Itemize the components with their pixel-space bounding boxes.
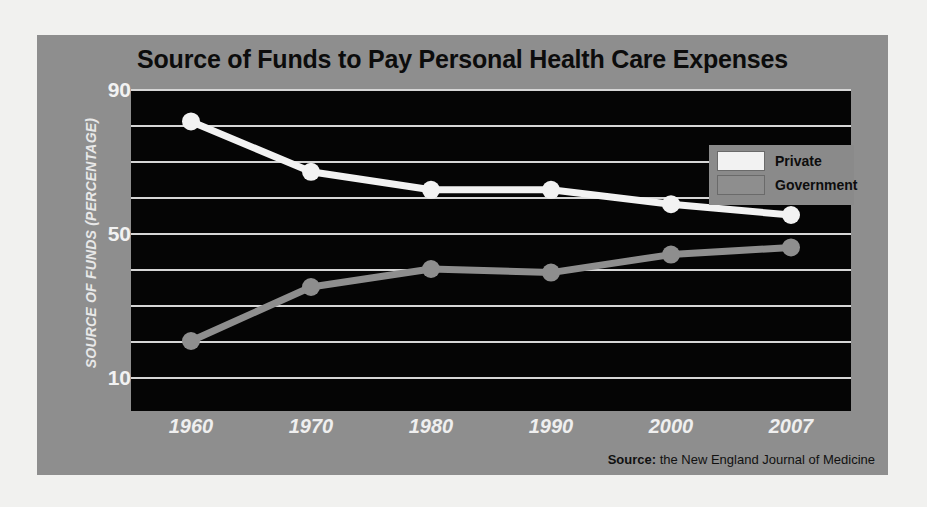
chart-card: Source of Funds to Pay Personal Health C…	[37, 35, 888, 475]
x-tick-label: 1960	[136, 415, 246, 438]
legend-swatch-private	[717, 151, 765, 171]
data-point-government-2000	[662, 246, 680, 264]
page-title: Source of Funds to Pay Personal Health C…	[37, 45, 888, 74]
legend-swatch-government	[717, 175, 765, 195]
data-point-private-2007	[782, 206, 800, 224]
data-point-government-2007	[782, 238, 800, 256]
y-axis-ticks: 90 50 10	[75, 35, 131, 475]
x-axis-ticks: 1960 1970 1980 1990 2000 2007	[131, 415, 851, 445]
x-tick-label: 2000	[616, 415, 726, 438]
x-tick-label: 1980	[376, 415, 486, 438]
line-government	[191, 247, 791, 341]
legend: Private Government	[709, 145, 854, 205]
series-svg	[131, 89, 851, 411]
page-root: Source of Funds to Pay Personal Health C…	[0, 0, 927, 507]
data-point-private-2000	[662, 195, 680, 213]
x-tick-label: 2007	[736, 415, 846, 438]
legend-label-government: Government	[775, 175, 857, 195]
x-tick-label: 1970	[256, 415, 366, 438]
legend-label-private: Private	[775, 151, 822, 171]
data-point-private-1960	[182, 112, 200, 130]
data-point-government-1970	[302, 278, 320, 296]
y-tick-label: 50	[85, 223, 131, 244]
data-point-government-1980	[422, 260, 440, 278]
data-point-government-1960	[182, 332, 200, 350]
source-prefix: Source:	[608, 452, 656, 467]
data-point-government-1990	[542, 264, 560, 282]
data-point-private-1980	[422, 181, 440, 199]
line-private	[191, 121, 791, 215]
data-point-private-1970	[302, 163, 320, 181]
y-tick-label: 10	[85, 367, 131, 388]
y-tick-label: 90	[85, 79, 131, 100]
source-text: the New England Journal of Medicine	[656, 452, 875, 467]
plot-area	[131, 89, 851, 411]
x-tick-label: 1990	[496, 415, 606, 438]
source-attribution: Source: the New England Journal of Medic…	[608, 452, 875, 467]
data-point-private-1990	[542, 181, 560, 199]
